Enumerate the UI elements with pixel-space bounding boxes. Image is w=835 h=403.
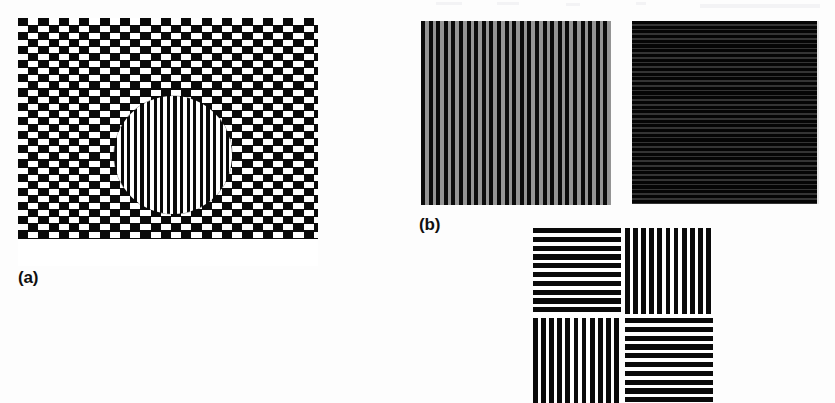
quad-cell-top-left — [533, 228, 621, 314]
scan-artifact — [636, 2, 646, 5]
panel-label-b: (b) — [419, 215, 440, 235]
panel-a-checkerboard — [18, 18, 318, 266]
figure-container: (a) (b) — [0, 0, 835, 403]
vertical-grating-gray-panel — [421, 21, 611, 205]
quad-cell-top-right — [625, 228, 713, 314]
horizontal-grating-dark-panel — [632, 21, 819, 204]
circular-grating-inset — [114, 96, 232, 214]
panel-label-a: (a) — [18, 268, 38, 288]
quad-cell-bottom-left — [533, 318, 621, 403]
scan-artifact — [566, 3, 580, 6]
orthogonal-grating-quad — [533, 228, 713, 403]
quad-cell-bottom-right — [625, 318, 713, 403]
scan-artifact — [436, 2, 462, 5]
scan-artifact — [497, 2, 519, 5]
checkerboard-mortar-line — [18, 238, 318, 239]
scan-artifact — [700, 4, 820, 8]
